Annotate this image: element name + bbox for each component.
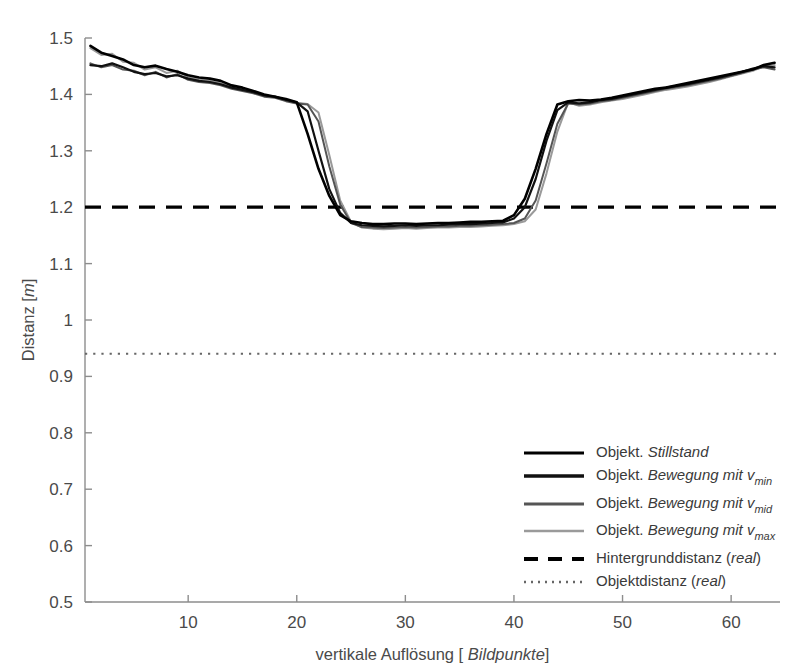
chart-legend: Objekt. StillstandObjekt. Bewegung mit v… xyxy=(524,443,776,589)
y-axis-tick-label: 1.1 xyxy=(49,255,73,274)
x-axis-tick-label: 60 xyxy=(722,613,741,632)
legend-item-label[interactable]: Objekt. Bewegung mit vmid xyxy=(596,494,773,515)
y-axis-title: Distanz [m] xyxy=(19,279,37,362)
y-axis-tick-label: 1.4 xyxy=(49,85,73,104)
series-line xyxy=(90,46,774,224)
y-axis-tick-label: 1 xyxy=(64,311,73,330)
figure-container: 0.50.60.70.80.911.11.21.31.41.5102030405… xyxy=(0,0,811,670)
series-line xyxy=(90,63,774,228)
x-axis-tick-label: 30 xyxy=(396,613,415,632)
x-axis-tick-label: 20 xyxy=(287,613,306,632)
legend-item-label[interactable]: Objektdistanz (real) xyxy=(596,572,726,589)
legend-item-label[interactable]: Objekt. Bewegung mit vmax xyxy=(596,521,776,542)
legend-item-label[interactable]: Objekt. Stillstand xyxy=(596,443,709,460)
y-axis-tick-label: 0.5 xyxy=(49,593,73,612)
y-axis-tick-label: 1.3 xyxy=(49,142,73,161)
y-axis-tick-label: 0.8 xyxy=(49,424,73,443)
y-axis-tick-label: 1.2 xyxy=(49,198,73,217)
chart-canvas: 0.50.60.70.80.911.11.21.31.41.5102030405… xyxy=(0,0,811,670)
y-axis-tick-label: 0.7 xyxy=(49,480,73,499)
y-axis-tick-label: 0.6 xyxy=(49,537,73,556)
x-axis-tick-label: 40 xyxy=(504,613,523,632)
data-series-layer xyxy=(85,46,780,354)
legend-item-label[interactable]: Hintergrunddistanz (real) xyxy=(596,549,761,566)
x-axis-title: vertikale Auflösung [ Bildpunkte] xyxy=(316,645,550,663)
x-axis-tick-label: 50 xyxy=(613,613,632,632)
x-axis-tick-label: 10 xyxy=(179,613,198,632)
axis-layer: 0.50.60.70.80.911.11.21.31.41.5102030405… xyxy=(49,29,780,632)
y-axis-tick-label: 0.9 xyxy=(49,367,73,386)
legend-item-label[interactable]: Objekt. Bewegung mit vmin xyxy=(596,466,772,487)
axis-label-layer: vertikale Auflösung [ Bildpunkte]Distanz… xyxy=(19,279,549,663)
y-axis-tick-label: 1.5 xyxy=(49,29,73,48)
